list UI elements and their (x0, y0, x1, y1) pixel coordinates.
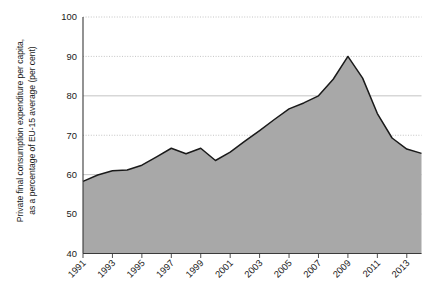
y-axis-label: Private final consumption expenditure pe… (6, 0, 48, 260)
x-tick-label-2005: 2005 (271, 257, 294, 280)
x-tick-label-2003: 2003 (242, 257, 265, 280)
x-tick-label-2011: 2011 (360, 257, 382, 279)
y-axis-label-line2: as a percentage of EU-15 average (per ce… (27, 38, 39, 221)
x-tick-label-1991: 1991 (65, 257, 88, 280)
y-axis-ticks: 100908070605040 (61, 11, 77, 259)
chart-container: Private final consumption expenditure pe… (0, 0, 439, 303)
x-tick-label-2009: 2009 (330, 257, 353, 280)
x-tick-label-1995: 1995 (124, 257, 147, 280)
y-tick-label-90: 90 (67, 51, 77, 62)
y-tick-label-60: 60 (67, 169, 77, 180)
x-tick-label-2007: 2007 (301, 257, 324, 280)
x-tick-label-1997: 1997 (154, 257, 177, 280)
area-chart-plot: 100908070605040 199119931995199719992001… (0, 0, 439, 303)
y-tick-label-40: 40 (67, 248, 77, 259)
y-tick-label-50: 50 (67, 208, 77, 219)
y-tick-label-80: 80 (67, 90, 77, 101)
x-tick-label-1993: 1993 (95, 257, 118, 280)
x-tick-label-1999: 1999 (183, 257, 206, 280)
y-tick-label-70: 70 (67, 130, 77, 141)
y-axis-label-line1: Private final consumption expenditure pe… (16, 38, 26, 221)
data-area-group (83, 56, 422, 253)
x-tick-label-2001: 2001 (213, 257, 236, 280)
area-fill-path (83, 56, 422, 253)
x-axis-ticks: 1991199319951997199920012003200520072009… (65, 254, 411, 280)
x-tick-label-2013: 2013 (389, 257, 412, 280)
y-tick-label-100: 100 (61, 11, 77, 22)
